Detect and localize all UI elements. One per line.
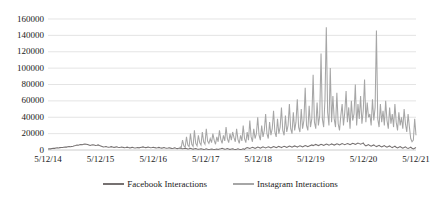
- y-tick-label: 40000: [22, 113, 45, 122]
- x-tick-label: 5/12/15: [87, 154, 115, 164]
- y-tick-label: 80000: [22, 80, 45, 89]
- x-tick-label: 5/12/21: [402, 154, 430, 164]
- series-line: [180, 27, 416, 147]
- legend-entry[interactable]: Instagram Interactions: [233, 179, 338, 189]
- series-lines: [48, 27, 416, 149]
- y-axis: 0200004000060000800001000001200001400001…: [0, 0, 46, 160]
- plot-area: [48, 19, 416, 150]
- plot-svg: [48, 19, 416, 150]
- x-tick-label: 5/12/14: [34, 154, 62, 164]
- chart-legend: Facebook InteractionsInstagram Interacti…: [0, 176, 441, 192]
- x-tick-label: 5/12/20: [350, 154, 378, 164]
- chart-container: 0200004000060000800001000001200001400001…: [0, 0, 441, 201]
- y-tick-label: 140000: [17, 31, 44, 40]
- y-tick-label: 60000: [22, 96, 45, 105]
- legend-swatch: [103, 183, 124, 186]
- x-tick-label: 5/12/17: [192, 154, 220, 164]
- y-tick-label: 20000: [22, 129, 45, 138]
- legend-entry[interactable]: Facebook Interactions: [103, 179, 207, 189]
- x-axis: 5/12/145/12/155/12/165/12/175/12/185/12/…: [0, 152, 441, 168]
- series-line: [48, 143, 416, 150]
- legend-label: Instagram Interactions: [257, 179, 338, 189]
- x-tick-label: 5/12/19: [297, 154, 325, 164]
- legend-swatch: [233, 183, 254, 186]
- gridlines: [48, 19, 416, 150]
- y-tick-label: 160000: [17, 15, 44, 24]
- x-tick-label: 5/12/18: [245, 154, 273, 164]
- x-tick-label: 5/12/16: [139, 154, 167, 164]
- y-tick-label: 100000: [17, 64, 44, 73]
- legend-label: Facebook Interactions: [127, 179, 207, 189]
- y-tick-label: 120000: [17, 47, 44, 56]
